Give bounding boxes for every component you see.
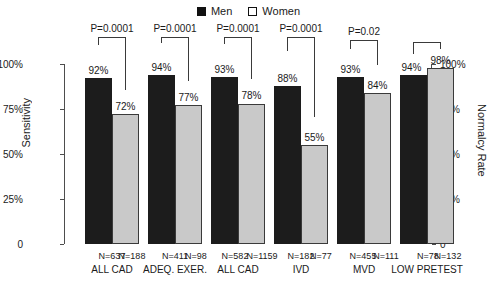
bar-value-men-4: 88%	[273, 74, 302, 84]
bar-group-2: 94% 77% P=0.0001	[148, 64, 202, 244]
bar-women-4[interactable]	[301, 145, 328, 244]
y-axis-left-tick-0	[60, 244, 64, 245]
bar-value-men-3: 93%	[210, 65, 239, 75]
bar-group-1: 92% 72% P=0.0001	[85, 64, 139, 244]
y-axis-left-label-100: 100%	[0, 60, 23, 70]
bar-men-6[interactable]	[400, 75, 427, 244]
bar-women-1[interactable]	[112, 114, 139, 244]
bar-men-2[interactable]	[148, 75, 175, 244]
legend-swatch-women-icon	[248, 7, 257, 16]
bar-men-1[interactable]	[85, 78, 112, 244]
chart-legend: Men Women	[0, 6, 497, 17]
bar-value-women-1: 72%	[111, 102, 140, 112]
bar-group-4: 88% 55% P=0.0001	[274, 64, 328, 244]
y-axis-left-tick-25	[60, 199, 64, 200]
y-axis-left-label-25: 25%	[3, 195, 23, 205]
bar-men-3[interactable]	[211, 77, 238, 244]
bar-value-men-2: 94%	[147, 63, 176, 73]
sample-size-women-6: N=132	[428, 252, 468, 261]
bar-value-women-4: 55%	[300, 133, 329, 143]
y-axis-right-tick-0	[432, 244, 436, 245]
legend-label-men: Men	[211, 6, 232, 17]
bar-men-5[interactable]	[337, 77, 364, 244]
bar-value-women-3: 78%	[237, 91, 266, 101]
y-axis-left-tick-50	[60, 154, 64, 155]
bar-group-5: 93% 84% P=0.02	[337, 64, 391, 244]
y-axis-left-line	[64, 64, 65, 244]
bar-value-men-5: 93%	[336, 65, 365, 75]
y-axis-left-tick-100	[60, 64, 64, 65]
bar-value-women-6: 98%	[426, 56, 455, 66]
legend-entry-men: Men	[197, 6, 232, 17]
p-value-5: P=0.02	[324, 27, 404, 37]
y-axis-left-label-0: 0	[17, 240, 23, 250]
plot-area: 100% 75% 50% 25% 0 100% 75% 50% 25% 0 Se…	[64, 64, 432, 244]
bar-chart: Men Women 100% 75% 50% 25% 0 100% 75% 50…	[0, 0, 497, 288]
bar-group-6: 94% 98%	[400, 64, 454, 244]
bar-value-men-6: 94%	[397, 63, 426, 73]
bar-men-4[interactable]	[274, 86, 301, 244]
bar-women-5[interactable]	[364, 93, 391, 244]
y-axis-left-tick-75	[60, 109, 64, 110]
y-axis-left-label-50: 50%	[3, 150, 23, 160]
bar-group-3: 93% 78% P=0.0001	[211, 64, 265, 244]
y-axis-left-title: Sensitivity	[20, 98, 32, 148]
bar-women-3[interactable]	[238, 104, 265, 244]
legend-label-women: Women	[262, 6, 300, 17]
legend-entry-women: Women	[248, 6, 300, 17]
bar-value-women-2: 77%	[174, 93, 203, 103]
legend-swatch-men-icon	[197, 7, 206, 16]
category-label-6: LOW PRETEST	[379, 265, 475, 275]
bar-value-women-5: 84%	[363, 81, 392, 91]
bar-women-2[interactable]	[175, 105, 202, 244]
bar-women-6[interactable]	[427, 68, 454, 244]
y-axis-right-title: Normalcy Rate	[476, 104, 488, 177]
bar-value-men-1: 92%	[84, 66, 113, 76]
